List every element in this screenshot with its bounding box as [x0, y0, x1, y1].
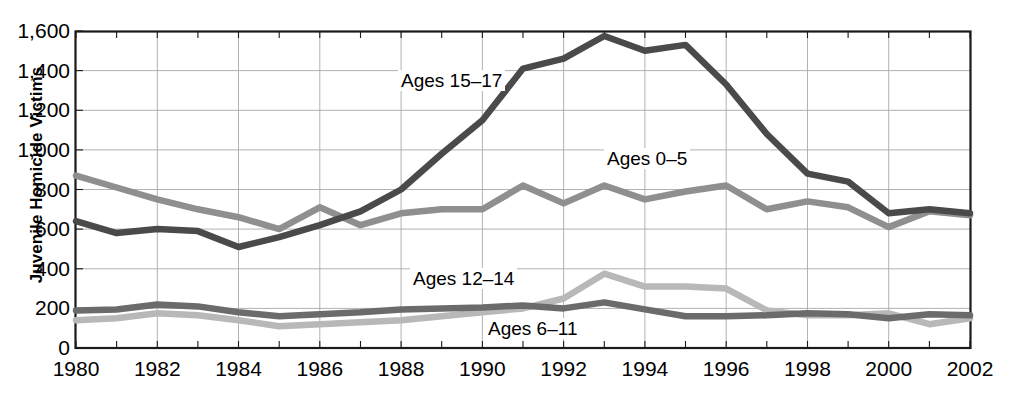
- data-series-lines: [76, 36, 970, 326]
- series-label: Ages 6–11: [485, 318, 580, 339]
- series-label: Ages 15–17: [398, 70, 505, 91]
- series-label: Ages 12–14: [410, 268, 517, 289]
- plot-area: [0, 0, 1022, 404]
- series-label: Ages 0–5: [604, 148, 690, 169]
- juvenile-homicide-line-chart: Juvenile Homicide Victims 02004006008001…: [0, 0, 1022, 404]
- gridlines: [76, 31, 970, 348]
- series-line: [76, 36, 970, 247]
- series-line: [76, 176, 970, 230]
